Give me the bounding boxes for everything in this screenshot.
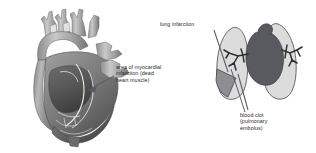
label-blood-clot: blood clot (pulmonary embolus)	[240, 112, 300, 131]
label-lung-infarction: lung infarction	[160, 21, 230, 27]
medical-illustration-figure: area of myocardial infarction (dead hear…	[0, 0, 316, 153]
mediastinum	[246, 31, 284, 85]
label-myocardial-infarction: area of myocardial infarction (dead hear…	[116, 64, 180, 83]
